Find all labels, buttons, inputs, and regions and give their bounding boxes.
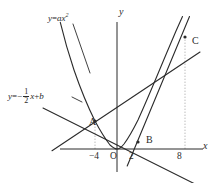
line-eq-minus: − (17, 92, 22, 101)
line-eq-intercept: b (39, 92, 44, 101)
line-eq-fraction: 12 (23, 88, 29, 105)
line-bc (127, 17, 189, 167)
callout-leader-line (72, 97, 82, 102)
line-ab-equation (43, 108, 215, 183)
point-c-marker (183, 35, 186, 38)
coordinate-geometry-figure: x y −4 O 2 8 A B C y=ax2 y=−12x+b (0, 0, 216, 183)
point-label-a: A (89, 117, 96, 127)
line-eq-denominator: 2 (23, 97, 29, 105)
point-label-b: B (146, 135, 153, 145)
origin-label: O (110, 152, 117, 162)
parabola-equation-label: y=ax2 (48, 12, 69, 23)
x-axis-label: x (203, 141, 207, 151)
x-tick-label-8: 8 (177, 152, 182, 162)
parabola-eq-exponent: 2 (66, 12, 69, 18)
x-tick-label-2: 2 (129, 152, 134, 162)
point-b-marker (136, 140, 139, 143)
y-axis-label: y (119, 7, 123, 17)
callout-leader-parabola (73, 24, 90, 73)
line-ac (52, 52, 200, 151)
line-equation-label: y=−12x+b (8, 88, 44, 105)
parabola-curve (60, 17, 182, 150)
x-tick-label-neg4: −4 (89, 152, 99, 162)
point-label-c: C (192, 36, 199, 46)
